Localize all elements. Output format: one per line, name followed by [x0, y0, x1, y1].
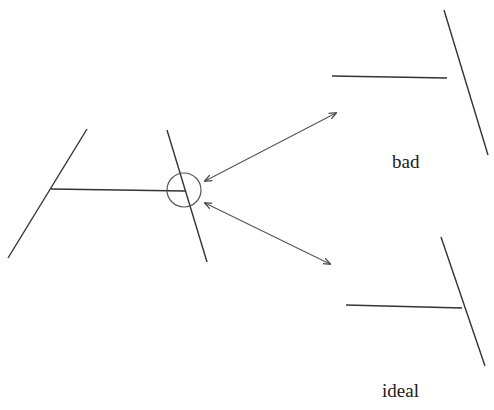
highlight-circle: [167, 173, 201, 207]
diagram-canvas: [0, 0, 494, 410]
source-connector: [51, 189, 185, 191]
bad-figure: [332, 10, 488, 155]
arrows: [205, 113, 336, 264]
source-figure: [8, 129, 207, 262]
ideal-connector: [346, 305, 462, 308]
arrow-to-ideal: [205, 203, 330, 264]
arrow-to-bad: [205, 113, 336, 181]
label-ideal: ideal: [382, 381, 419, 400]
label-bad: bad: [392, 152, 419, 171]
source-right-line: [167, 130, 207, 262]
bad-slanted-line: [444, 10, 488, 155]
ideal-slanted-line: [441, 237, 485, 366]
source-left-line: [8, 129, 87, 258]
bad-connector: [332, 76, 447, 78]
ideal-figure: [346, 237, 485, 366]
